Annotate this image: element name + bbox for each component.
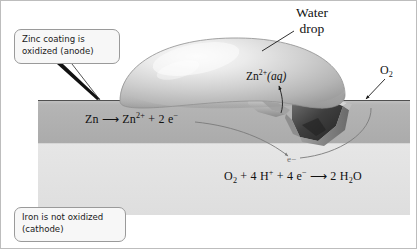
water-drop-line-1: Water bbox=[296, 5, 328, 21]
anode-electron-charge: − bbox=[173, 111, 178, 120]
anode-product-charge: 2+ bbox=[136, 111, 145, 120]
cathode-plus-2: + bbox=[277, 169, 284, 183]
cathode-water-o: O bbox=[353, 169, 362, 183]
anode-reactant: Zn bbox=[85, 112, 99, 126]
water-drop-label: Water drop bbox=[296, 5, 328, 36]
cathode-water-count: 2 bbox=[330, 169, 336, 183]
cathode-e-charge: − bbox=[302, 168, 307, 177]
oxygen-species: O bbox=[380, 63, 389, 77]
anode-electron-count: 2 bbox=[159, 112, 165, 126]
arrow-oxygen bbox=[366, 79, 385, 99]
cathode-o2-species: O bbox=[224, 169, 233, 183]
zinc-ion-label: Zn2+(aq) bbox=[246, 68, 286, 82]
cathode-h-charge: + bbox=[269, 168, 274, 177]
cathode-e-count: 4 bbox=[287, 169, 293, 183]
cathode-plus-1: + bbox=[240, 169, 247, 183]
oxygen-count: 2 bbox=[389, 70, 393, 79]
cathode-water-h: H bbox=[340, 169, 349, 183]
leader-anode-callout bbox=[57, 64, 100, 100]
anode-equation: Zn ⟶ Zn2+ + 2 e− bbox=[85, 111, 178, 127]
cathode-h-count: 4 bbox=[251, 169, 257, 183]
anode-arrow: ⟶ bbox=[102, 112, 119, 126]
anode-product-species: Zn bbox=[122, 112, 136, 126]
water-drop-shape bbox=[120, 36, 345, 108]
zinc-ion-species: Zn bbox=[246, 70, 259, 82]
water-drop-line-2: drop bbox=[296, 21, 328, 37]
zinc-ion-charge: 2+ bbox=[259, 68, 267, 77]
zinc-ion-state: (aq) bbox=[267, 70, 286, 82]
cathode-o2-subscript: 2 bbox=[233, 176, 237, 185]
electron-label: e− bbox=[287, 154, 296, 164]
cathode-arrow: ⟶ bbox=[310, 169, 327, 183]
callout-cathode: Iron is not oxidized (cathode) bbox=[14, 207, 126, 242]
figure-canvas: Water drop Zn2+(aq) O2 e− Zn ⟶ Zn2+ + 2 … bbox=[0, 0, 418, 250]
callout-anode: Zinc coating is oxidized (anode) bbox=[14, 29, 120, 64]
cathode-h-species: H bbox=[260, 169, 269, 183]
cathode-equation: O2 + 4 H+ + 4 e− ⟶ 2 H2O bbox=[224, 168, 362, 185]
oxygen-label: O2 bbox=[380, 63, 393, 79]
anode-plus: + bbox=[148, 112, 155, 126]
